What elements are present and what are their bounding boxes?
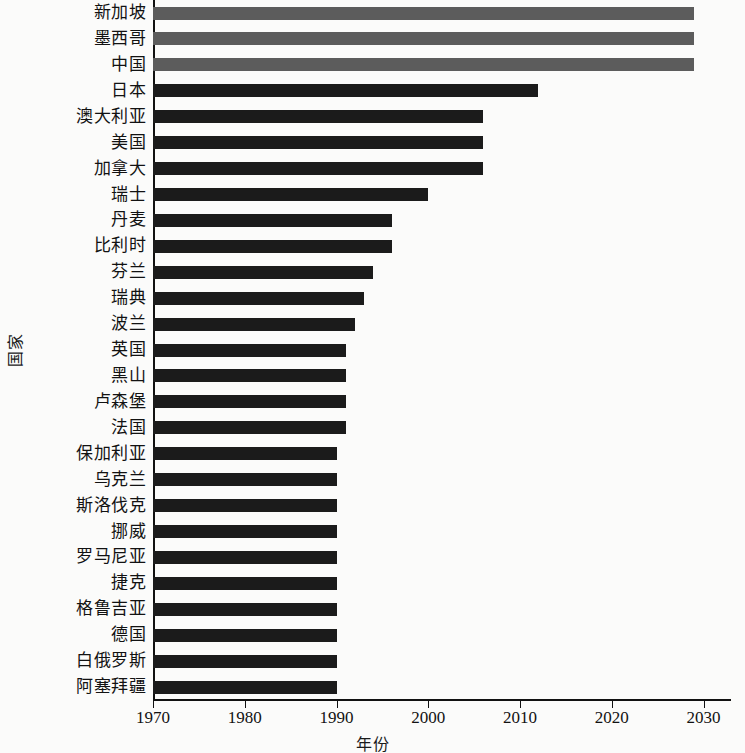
bar xyxy=(153,136,483,149)
x-axis-tick-label: 2000 xyxy=(411,708,445,728)
category-label: 阿塞拜疆 xyxy=(76,674,146,700)
bar xyxy=(153,84,538,97)
category-label: 比利时 xyxy=(94,233,147,259)
plot-area: 1970198019902000201020202030 xyxy=(153,0,731,700)
bar xyxy=(153,473,337,486)
bar xyxy=(153,162,483,175)
bar xyxy=(153,681,337,694)
bar xyxy=(153,447,337,460)
bar xyxy=(153,369,346,382)
bar xyxy=(153,32,694,45)
category-label: 卢森堡 xyxy=(94,389,147,415)
category-label: 墨西哥 xyxy=(94,26,147,52)
category-label: 格鲁吉亚 xyxy=(76,596,146,622)
x-axis-line xyxy=(153,699,731,701)
bar xyxy=(153,344,346,357)
category-label: 法国 xyxy=(111,415,146,441)
category-label: 黑山 xyxy=(111,363,146,389)
category-label: 挪威 xyxy=(111,519,146,545)
bar xyxy=(153,214,392,227)
category-label: 斯洛伐克 xyxy=(76,493,146,519)
bar xyxy=(153,318,355,331)
bar xyxy=(153,577,337,590)
bar xyxy=(153,603,337,616)
category-label: 英国 xyxy=(111,337,146,363)
x-axis-tick-label: 2010 xyxy=(503,708,537,728)
category-label: 中国 xyxy=(111,52,146,78)
category-label: 澳大利亚 xyxy=(76,104,146,130)
y-axis-title-text: 国家 xyxy=(2,333,26,367)
category-label: 瑞士 xyxy=(111,182,146,208)
category-label: 保加利亚 xyxy=(76,441,146,467)
bar xyxy=(153,188,428,201)
bar-chart: 国家 新加坡墨西哥中国日本澳大利亚美国加拿大瑞士丹麦比利时芬兰瑞典波兰英国黑山卢… xyxy=(0,0,745,753)
category-label: 罗马尼亚 xyxy=(76,544,146,570)
category-label: 丹麦 xyxy=(111,207,146,233)
x-axis-tick xyxy=(245,701,246,708)
category-label-column: 新加坡墨西哥中国日本澳大利亚美国加拿大瑞士丹麦比利时芬兰瑞典波兰英国黑山卢森堡法… xyxy=(28,0,150,700)
x-axis-tick xyxy=(337,701,338,708)
category-label: 瑞典 xyxy=(111,285,146,311)
category-label: 加拿大 xyxy=(94,156,147,182)
bar xyxy=(153,525,337,538)
category-label: 新加坡 xyxy=(94,0,147,26)
x-axis-tick xyxy=(153,701,154,708)
bar xyxy=(153,395,346,408)
x-axis-tick-label: 2030 xyxy=(687,708,721,728)
bar xyxy=(153,421,346,434)
x-axis-tick-label: 1970 xyxy=(136,708,170,728)
category-label: 美国 xyxy=(111,130,146,156)
bar xyxy=(153,629,337,642)
x-axis-tick-label: 1980 xyxy=(228,708,262,728)
category-label: 乌克兰 xyxy=(94,467,147,493)
category-label: 捷克 xyxy=(111,570,146,596)
category-label: 波兰 xyxy=(111,311,146,337)
x-axis-tick-label: 1990 xyxy=(320,708,354,728)
x-axis-tick xyxy=(428,701,429,708)
bar xyxy=(153,7,694,20)
x-axis-tick xyxy=(704,701,705,708)
category-label: 芬兰 xyxy=(111,259,146,285)
bar xyxy=(153,240,392,253)
bar xyxy=(153,292,364,305)
bar xyxy=(153,551,337,564)
x-axis-tick xyxy=(520,701,521,708)
bar xyxy=(153,58,694,71)
category-label: 白俄罗斯 xyxy=(76,648,146,674)
category-label: 德国 xyxy=(111,622,146,648)
bar xyxy=(153,110,483,123)
x-axis-tick xyxy=(612,701,613,708)
bar xyxy=(153,499,337,512)
bar xyxy=(153,655,337,668)
x-axis-tick-label: 2020 xyxy=(595,708,629,728)
category-label: 日本 xyxy=(111,78,146,104)
bar xyxy=(153,266,373,279)
y-axis-title: 国家 xyxy=(0,0,28,700)
x-axis-title: 年份 xyxy=(0,731,745,753)
